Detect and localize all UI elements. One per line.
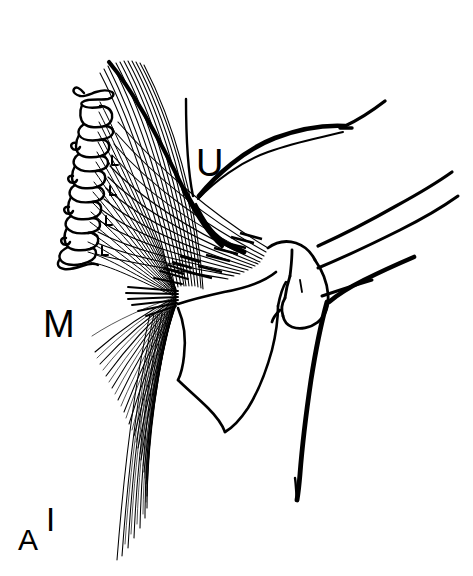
anatomy-drawing-svg	[0, 0, 473, 576]
orientation-label-anterior: A	[18, 525, 38, 555]
orientation-label-inferior: I	[46, 503, 55, 536]
orientation-label-superior: U	[196, 144, 223, 182]
orientation-label-medial: M	[43, 305, 75, 343]
figure-background	[0, 0, 473, 576]
anatomical-figure: U M A I	[0, 0, 473, 576]
